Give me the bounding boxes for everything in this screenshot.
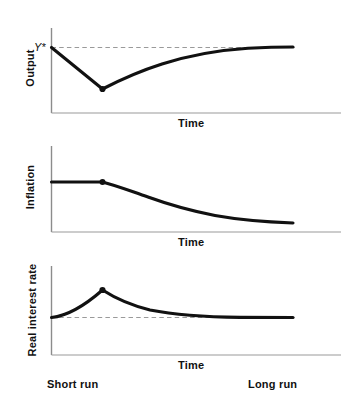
panel-inflation: Inflation Time	[0, 135, 359, 255]
panel-output: Output Y* Time	[0, 0, 359, 135]
output-curve	[52, 47, 294, 89]
output-ystar-label: Y*	[34, 41, 46, 53]
short-run-label: Short run	[47, 378, 98, 390]
inflation-y-axis-label: Inflation	[24, 161, 36, 213]
output-x-axis-label: Time	[178, 117, 204, 129]
impulse-response-figure: Output Y* Time Inflation Time	[0, 0, 359, 409]
rir-x-axis-label: Time	[178, 359, 204, 371]
rir-y-axis-label: Real interest rate	[26, 262, 38, 358]
output-trough-marker	[99, 86, 105, 92]
inflation-curve	[52, 182, 294, 223]
inflation-x-axis-label: Time	[178, 236, 204, 248]
rir-curve	[52, 290, 294, 318]
long-run-label: Long run	[248, 378, 297, 390]
inflation-kink-marker	[100, 179, 106, 185]
output-chart-svg	[0, 0, 359, 135]
rir-peak-marker	[99, 287, 105, 293]
